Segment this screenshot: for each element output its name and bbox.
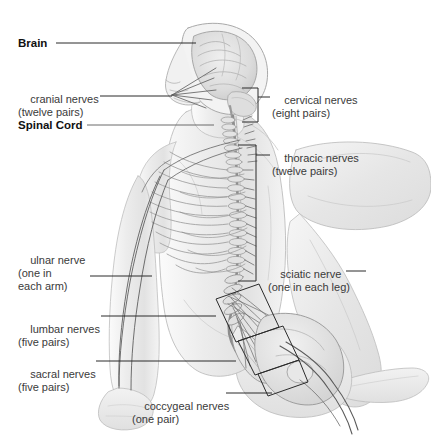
label-thoracic-nerves: thoracic nerves(twelve pairs) — [272, 139, 359, 204]
label-coccygeal-nerves: coccygeal nerves(one pair) — [132, 387, 229, 441]
bracket-cervical-nerves — [242, 88, 258, 122]
label-spinal-cord: Spinal Cord — [18, 119, 83, 132]
label-cranial-nerves: cranial nerves(twelve pairs) — [18, 80, 99, 145]
label-sciatic-nerve: sciatic nerve(one in each leg) — [268, 255, 350, 320]
label-sacral-nerves: sacral nerves(five pairs) — [18, 355, 96, 420]
nervous-system-diagram: Brain cranial nerves(twelve pairs) Spina… — [0, 0, 431, 441]
label-cervical-nerves: cervical nerves(eight pairs) — [272, 81, 358, 146]
bracket-coccygeal-nerves — [258, 360, 308, 396]
bracket-sacral-nerves — [238, 326, 299, 375]
label-brain: Brain — [18, 37, 47, 50]
label-ulnar-nerve: ulnar nerve(one ineach arm) — [18, 241, 85, 319]
bracket-thoracic-nerves — [238, 145, 256, 281]
